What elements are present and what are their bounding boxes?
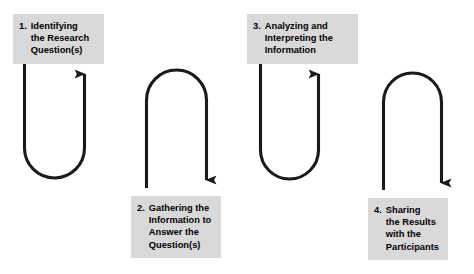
step-number-4: 4. [374, 204, 386, 216]
connector-u-turn-up-1 [25, 64, 85, 178]
diagram-canvas: 1. Identifying the Research Question(s) … [0, 0, 474, 274]
step-label-1: 1. Identifying the Research Question(s) [13, 14, 104, 64]
connector-arch-down-1 [147, 70, 207, 188]
step-text-3: Analyzing and Interpreting the Informati… [265, 20, 353, 57]
step-label-3: 3. Analyzing and Interpreting the Inform… [247, 14, 358, 64]
step-label-3-content: 3. Analyzing and Interpreting the Inform… [253, 20, 353, 57]
step-number-2: 2. [137, 202, 149, 214]
step-text-4: Sharing the Results with the Participant… [386, 204, 443, 253]
step-label-2-content: 2. Gathering the Information to Answer t… [137, 202, 216, 251]
step-text-1: Identifying the Research Question(s) [31, 20, 99, 57]
step-number-3: 3. [253, 20, 265, 32]
step-number-1: 1. [19, 20, 31, 32]
step-text-2: Gathering the Information to Answer the … [149, 202, 216, 251]
connector-arch-down-2 [384, 73, 442, 190]
connector-u-turn-up-2 [261, 64, 319, 179]
step-label-2: 2. Gathering the Information to Answer t… [131, 196, 221, 258]
step-label-4: 4. Sharing the Results with the Particip… [368, 198, 448, 260]
step-label-1-content: 1. Identifying the Research Question(s) [19, 20, 99, 57]
step-label-4-content: 4. Sharing the Results with the Particip… [374, 204, 443, 253]
